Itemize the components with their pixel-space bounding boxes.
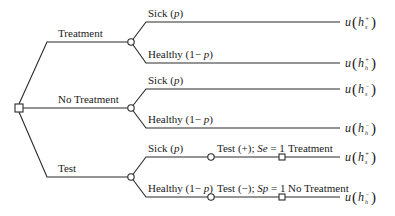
decision-node-root <box>15 104 23 112</box>
utility-function: u <box>345 56 351 70</box>
utility-subscript: h <box>365 65 368 71</box>
utility-subscript: s <box>365 24 368 30</box>
strategy-label-treatment: Treatment <box>58 27 103 39</box>
utility-function: u <box>345 190 351 204</box>
utility-variable: h <box>358 190 364 204</box>
strategy-label-test: Test <box>58 162 76 174</box>
utility-open-paren: ( <box>352 120 357 137</box>
decision-node-test-positive <box>279 154 285 160</box>
root-branches <box>19 42 131 177</box>
utility-open-paren: ( <box>352 55 357 72</box>
edge-no-treatment-sick <box>131 89 340 108</box>
test-result-negative-label: Test (−); Sp = 1 <box>217 182 285 195</box>
utility-subscript: s <box>365 159 368 165</box>
utility-function: u <box>345 150 351 164</box>
outcome-label-treatment-healthy: Healthy (1− p) <box>148 48 213 61</box>
utility-superscript: − <box>365 191 369 197</box>
utility-close-paren: ) <box>371 14 376 31</box>
decision-tree: Treatment No Treatment Test Sick (p) Hea… <box>0 0 395 216</box>
chance-node-no-treatment <box>128 105 134 111</box>
outcome-label-no-treatment-healthy: Healthy (1− p) <box>148 113 213 126</box>
utility-label: u(h+s) <box>345 149 376 166</box>
utility-open-paren: ( <box>352 189 357 206</box>
chance-node-test-positive <box>208 154 214 160</box>
utility-variable: h <box>358 82 364 96</box>
utility-function: u <box>345 15 351 29</box>
utility-label: u(h−s) <box>345 81 376 98</box>
decision-node-test-negative <box>279 194 285 200</box>
utility-open-paren: ( <box>352 149 357 166</box>
utility-variable: h <box>358 56 364 70</box>
edge-test-sick <box>131 157 340 177</box>
utility-close-paren: ) <box>371 55 376 72</box>
utility-superscript: − <box>365 122 369 128</box>
test-action-treatment-label: Treatment <box>288 142 333 154</box>
utility-variable: h <box>358 121 364 135</box>
strategy-label-no-treatment: No Treatment <box>58 93 119 105</box>
test-action-no-treatment-label: No Treatment <box>288 182 349 194</box>
utility-labels: u(h+s)u(h+h)u(h−s)u(h−h)u(h+s)u(h−h) <box>345 14 376 206</box>
outcome-label-treatment-sick: Sick (p) <box>148 7 183 20</box>
utility-subscript: h <box>365 199 368 205</box>
utility-open-paren: ( <box>352 81 357 98</box>
utility-close-paren: ) <box>371 120 376 137</box>
outcome-label-test-healthy: Healthy (1− p) <box>148 182 213 195</box>
utility-label: u(h+s) <box>345 14 376 31</box>
utility-label: u(h+h) <box>345 55 376 72</box>
utility-label: u(h−h) <box>345 120 376 137</box>
utility-function: u <box>345 121 351 135</box>
edge-treatment-sick <box>131 22 340 42</box>
chance-node-test <box>128 174 134 180</box>
outcome-label-test-sick: Sick (p) <box>148 142 183 155</box>
utility-variable: h <box>358 15 364 29</box>
chance-node-test-negative <box>208 194 214 200</box>
utility-variable: h <box>358 150 364 164</box>
utility-close-paren: ) <box>371 149 376 166</box>
utility-function: u <box>345 82 351 96</box>
chance-node-treatment <box>128 39 134 45</box>
utility-close-paren: ) <box>371 81 376 98</box>
test-result-positive-label: Test (+); Se = 1 <box>217 142 285 155</box>
utility-subscript: h <box>365 130 368 136</box>
utility-superscript: + <box>365 16 369 22</box>
utility-open-paren: ( <box>352 14 357 31</box>
utility-label: u(h−h) <box>345 189 376 206</box>
outcome-label-no-treatment-sick: Sick (p) <box>148 74 183 87</box>
utility-superscript: − <box>365 83 369 89</box>
utility-superscript: + <box>365 57 369 63</box>
utility-superscript: + <box>365 151 369 157</box>
utility-subscript: s <box>365 91 368 97</box>
utility-close-paren: ) <box>371 189 376 206</box>
